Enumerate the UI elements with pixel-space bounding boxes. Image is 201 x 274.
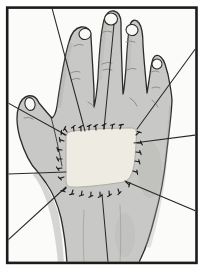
middle-finger-nail [105, 13, 118, 25]
illustration-canvas [0, 0, 201, 274]
wrist-shading [115, 213, 135, 257]
skin-graft-patch [66, 128, 137, 187]
dorsum-shading [138, 142, 162, 198]
medical-illustration [0, 0, 201, 274]
